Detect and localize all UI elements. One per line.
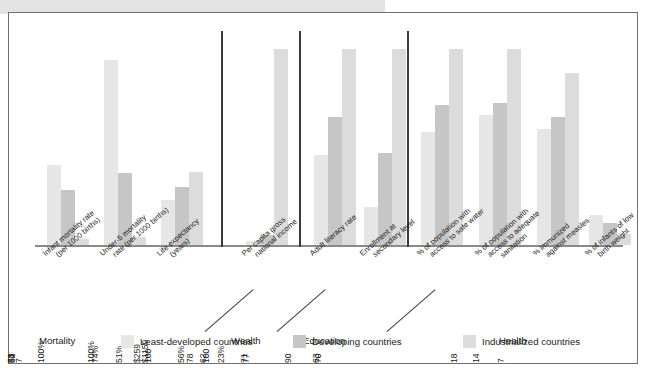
bar-value-label: 7 — [496, 358, 628, 363]
category-leader-line — [205, 289, 254, 332]
bar — [479, 115, 493, 245]
section-divider-mortality-wealth — [221, 31, 223, 247]
legend-label: Developing countries — [312, 336, 402, 347]
bar — [421, 132, 435, 245]
chart-frame: 100625157897516278$259$1159$28,21051%74%… — [8, 12, 638, 364]
bar — [47, 165, 61, 245]
section-divider-wealth-education — [299, 31, 301, 247]
x-axis-label: Per capita grossnational income — [240, 210, 299, 264]
legend-label: Least-developed countries — [140, 336, 253, 347]
chart-legend: Least-developed countriesDeveloping coun… — [31, 335, 611, 351]
legend-swatch — [121, 335, 134, 348]
plot-area: 100625157897516278$259$1159$28,21051%74%… — [9, 13, 637, 363]
legend-item[interactable]: Least-developed countries — [121, 335, 253, 348]
legend-item[interactable]: Industrialized countries — [463, 335, 580, 348]
legend-item[interactable]: Developing countries — [293, 335, 402, 348]
category-leader-line — [387, 289, 436, 332]
legend-swatch — [293, 335, 306, 348]
legend-label: Industrialized countries — [482, 336, 580, 347]
bar — [104, 60, 118, 245]
category-leader-line — [277, 289, 326, 332]
legend-swatch — [463, 335, 476, 348]
bar — [314, 155, 328, 245]
